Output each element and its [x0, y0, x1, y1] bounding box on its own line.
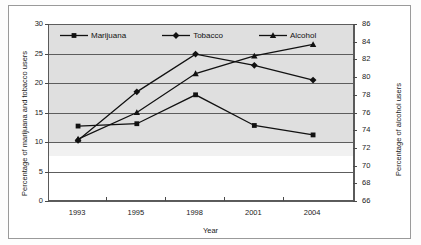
x-tick-label-2001: 2001: [231, 208, 275, 217]
y-right-tick-label-66: 66: [362, 197, 384, 205]
data-point-tobacco-1998: [192, 51, 199, 58]
y-left-tick-label-0: 0: [21, 197, 43, 205]
data-point-marijuana-1995: [134, 121, 139, 126]
y-left-tickmark-0: [45, 201, 49, 202]
y-right-tickmark-66: [353, 201, 357, 202]
gridline-0: [49, 201, 353, 202]
y-left-tickmark-10: [45, 142, 49, 143]
plot-area: [48, 24, 354, 201]
data-point-tobacco-2001: [251, 62, 258, 69]
data-point-alcohol-2004: [310, 41, 316, 47]
y-right-tick-label-84: 84: [362, 38, 384, 46]
x-tick-label-1998: 1998: [173, 208, 217, 217]
series-line-marijuana: [78, 95, 313, 135]
y-right-tick-label-80: 80: [362, 73, 384, 81]
legend-label-tobacco: Tobacco: [193, 31, 223, 40]
data-point-marijuana-2001: [252, 123, 257, 128]
legend-label-marijuana: Marijuana: [91, 31, 126, 40]
y-right-tickmark-80: [353, 77, 357, 78]
y-right-tick-label-68: 68: [362, 179, 384, 187]
x-tick-label-1993: 1993: [55, 208, 99, 217]
y-right-tickmark-72: [353, 148, 357, 149]
y-left-tickmark-25: [45, 54, 49, 55]
y-right-tickmark-70: [353, 166, 357, 167]
x-axis-title: Year: [0, 226, 421, 235]
y-right-tick-label-86: 86: [362, 20, 384, 28]
legend-label-alcohol: Alcohol: [290, 31, 316, 40]
y-right-tickmark-78: [353, 95, 357, 96]
y-right-tickmark-68: [353, 183, 357, 184]
triangle-marker-icon: [259, 31, 287, 40]
x-tickmark-3: [283, 197, 284, 201]
y-right-tick-label-74: 74: [362, 126, 384, 134]
data-point-alcohol-1995: [134, 109, 140, 115]
diamond-marker-icon: [162, 31, 190, 40]
chart-figure: 302520151050 8684828078767472706866 1993…: [0, 0, 421, 245]
x-tickmark-1: [165, 197, 166, 201]
series-marijuana: [76, 92, 316, 137]
data-point-marijuana-1998: [193, 92, 198, 97]
y-right-tickmark-86: [353, 24, 357, 25]
data-point-tobacco-2004: [310, 77, 317, 84]
x-tick-label-1995: 1995: [114, 208, 158, 217]
y-left-tickmark-5: [45, 172, 49, 173]
y-right-tick-label-72: 72: [362, 144, 384, 152]
x-tickmark-2: [224, 197, 225, 201]
y-right-tickmark-84: [353, 42, 357, 43]
data-point-marijuana-2004: [311, 133, 316, 138]
y-right-tick-label-82: 82: [362, 55, 384, 63]
series-layer: [49, 24, 355, 201]
legend-item-marijuana: Marijuana: [60, 31, 126, 40]
x-tick-label-2004: 2004: [290, 208, 334, 217]
y-right-tick-label-70: 70: [362, 162, 384, 170]
square-marker-icon: [60, 31, 88, 40]
y-right-tickmark-82: [353, 59, 357, 60]
data-point-marijuana-1993: [76, 124, 81, 129]
y-axis-left-title: Percentage of marijuana and tobacco user…: [20, 51, 29, 196]
y-left-tick-label-30: 30: [21, 20, 43, 28]
y-left-tickmark-30: [45, 24, 49, 25]
chart-legend: MarijuanaTobaccoAlcohol: [60, 31, 316, 40]
y-right-tick-label-76: 76: [362, 109, 384, 117]
legend-item-alcohol: Alcohol: [259, 31, 316, 40]
y-right-tick-label-78: 78: [362, 91, 384, 99]
y-right-tickmark-74: [353, 130, 357, 131]
y-left-tickmark-15: [45, 113, 49, 114]
x-tickmark-0: [106, 197, 107, 201]
y-right-tickmark-76: [353, 113, 357, 114]
y-axis-right-title: Percentage of alcohol users: [394, 83, 403, 176]
legend-item-tobacco: Tobacco: [162, 31, 223, 40]
y-left-tickmark-20: [45, 83, 49, 84]
